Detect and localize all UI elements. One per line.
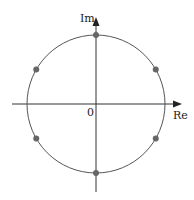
root-point bbox=[153, 67, 159, 73]
imaginary-axis-label: Im bbox=[80, 12, 95, 25]
real-axis-label: Re bbox=[173, 109, 188, 122]
real-axis-arrow-icon bbox=[173, 101, 182, 108]
complex-plane-diagram: Im Re 0 bbox=[0, 0, 194, 200]
root-point bbox=[93, 170, 99, 176]
root-point bbox=[93, 32, 99, 38]
root-point bbox=[33, 136, 39, 142]
root-point bbox=[153, 136, 159, 142]
origin-label: 0 bbox=[87, 106, 94, 119]
root-point bbox=[33, 67, 39, 73]
